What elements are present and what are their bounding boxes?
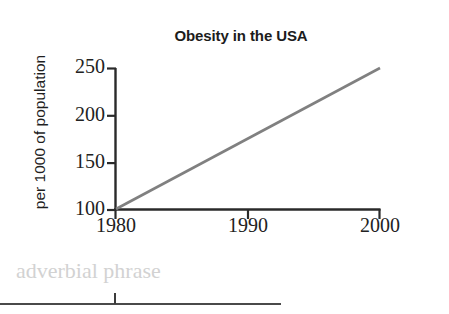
chart-figure: Obesity in the USA per 1000 of populatio…: [0, 0, 449, 250]
x-tick-label-1980: 1980: [71, 214, 161, 237]
y-tick-label-150: 150: [49, 150, 105, 173]
x-tick-label-1990: 1990: [203, 214, 293, 237]
data-line-obesity: [116, 68, 380, 209]
y-tick-label-250: 250: [49, 55, 105, 78]
y-tick-label-200: 200: [49, 103, 105, 126]
screenshot-root: Obesity in the USA per 1000 of populatio…: [0, 0, 449, 314]
x-tick-label-2000: 2000: [335, 214, 425, 237]
annotation-horizontal-rule: [0, 303, 281, 305]
annotation-block: adverbial phrase: [0, 250, 449, 314]
annotation-label: adverbial phrase: [16, 258, 161, 284]
annotation-vertical-tick: [114, 293, 116, 304]
